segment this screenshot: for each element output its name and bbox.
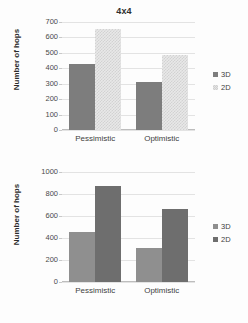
y-tick-label: 400 xyxy=(45,234,58,242)
gridline xyxy=(62,172,195,173)
bar-2d-pessimistic xyxy=(95,186,121,282)
y-tick-label: 700 xyxy=(45,18,58,26)
gridline xyxy=(62,37,195,38)
legend-item-3d[interactable]: 3D xyxy=(213,220,231,233)
chart-bottom-plot-area: 02004006008001000PessimisticOptimistic xyxy=(62,172,195,282)
y-tick-label: 100 xyxy=(45,111,58,119)
y-tick-mark xyxy=(59,99,62,100)
legend-swatch-icon xyxy=(213,237,218,242)
y-tick-label: 1000 xyxy=(41,168,58,176)
bar-2d-pessimistic xyxy=(95,29,121,130)
y-tick-mark xyxy=(59,37,62,38)
y-tick-label: 0 xyxy=(54,278,58,286)
legend-item-3d[interactable]: 3D xyxy=(213,68,231,81)
legend-label: 2D xyxy=(221,84,231,92)
chart-top-legend: 3D2D xyxy=(213,68,231,94)
y-tick-mark xyxy=(59,22,62,23)
gridline xyxy=(62,130,195,131)
legend-swatch-icon xyxy=(213,72,218,77)
y-tick-label: 400 xyxy=(45,65,58,73)
y-tick-mark xyxy=(59,260,62,261)
y-tick-label: 300 xyxy=(45,80,58,88)
bar-3d-optimistic xyxy=(136,248,162,282)
y-tick-label: 200 xyxy=(45,256,58,264)
chart-bottom: Number of hops 02004006008001000Pessimis… xyxy=(0,160,248,323)
legend-label: 3D xyxy=(221,223,231,231)
legend-item-2d[interactable]: 2D xyxy=(213,81,231,94)
y-tick-label: 500 xyxy=(45,49,58,57)
legend-item-2d[interactable]: 2D xyxy=(213,233,231,246)
y-tick-label: 800 xyxy=(45,190,58,198)
x-tick-label: Pessimistic xyxy=(75,286,115,295)
y-tick-mark xyxy=(59,68,62,69)
y-tick-mark xyxy=(59,282,62,283)
y-tick-mark xyxy=(59,84,62,85)
bar-3d-pessimistic xyxy=(69,64,95,130)
gridline xyxy=(62,22,195,23)
x-tick-label: Optimistic xyxy=(144,286,179,295)
gridline xyxy=(62,53,195,54)
y-tick-label: 0 xyxy=(54,126,58,134)
y-tick-label: 600 xyxy=(45,34,58,42)
y-tick-label: 200 xyxy=(45,95,58,103)
chart-bottom-y-axis-title: Number of hops xyxy=(12,184,21,245)
chart-top-y-axis-title: Number of hops xyxy=(12,29,21,90)
bar-3d-optimistic xyxy=(136,82,162,130)
gridline xyxy=(62,282,195,283)
y-tick-mark xyxy=(59,130,62,131)
legend-swatch-icon xyxy=(213,224,218,229)
chart-top-title: 4x4 xyxy=(0,6,248,16)
y-tick-mark xyxy=(59,172,62,173)
bar-2d-optimistic xyxy=(162,55,188,130)
legend-label: 2D xyxy=(221,236,231,244)
gridline xyxy=(62,194,195,195)
legend-label: 3D xyxy=(221,71,231,79)
y-tick-mark xyxy=(59,216,62,217)
y-tick-mark xyxy=(59,194,62,195)
x-tick-label: Pessimistic xyxy=(75,134,115,143)
x-tick-label: Optimistic xyxy=(144,134,179,143)
y-tick-mark xyxy=(59,115,62,116)
bar-2d-optimistic xyxy=(162,209,188,282)
chart-bottom-legend: 3D2D xyxy=(213,220,231,246)
legend-swatch-icon xyxy=(213,85,218,90)
chart-top-plot-area: 0100200300400500600700PessimisticOptimis… xyxy=(62,22,195,130)
chart-top: 4x4 Number of hops 010020030040050060070… xyxy=(0,0,248,160)
y-tick-label: 600 xyxy=(45,212,58,220)
y-tick-mark xyxy=(59,238,62,239)
y-tick-mark xyxy=(59,53,62,54)
bar-3d-pessimistic xyxy=(69,232,95,282)
figure-two-bar-charts: 4x4 Number of hops 010020030040050060070… xyxy=(0,0,248,323)
